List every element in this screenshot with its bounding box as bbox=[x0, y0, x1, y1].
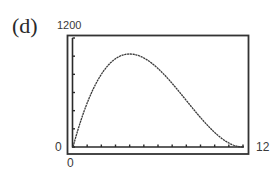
graph-window bbox=[0, 0, 271, 172]
window-frame bbox=[68, 36, 249, 155]
function-curve bbox=[73, 54, 243, 147]
